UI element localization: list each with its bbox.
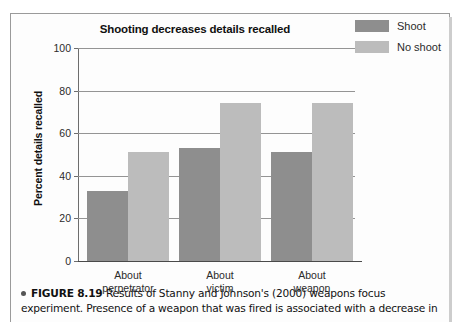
bar-no-shoot xyxy=(128,152,169,261)
plot-area: 020406080100 AboutperpetratorAboutvictim… xyxy=(78,48,355,261)
legend-label-shoot: Shoot xyxy=(397,20,426,32)
y-tick-mark xyxy=(74,133,78,134)
x-axis-line xyxy=(75,261,362,262)
bar-no-shoot xyxy=(220,103,261,261)
bar-shoot xyxy=(179,148,220,261)
legend-swatch-no-shoot xyxy=(355,41,389,53)
legend-swatch-shoot xyxy=(355,20,389,32)
bar-chart-figure: Shooting decreases details recalled Shoo… xyxy=(10,13,450,275)
y-tick-label: 100 xyxy=(53,42,71,54)
bar-shoot xyxy=(87,191,128,261)
y-tick-label: 40 xyxy=(59,170,71,182)
caption-figure-label: FIGURE 8.19 xyxy=(31,287,103,299)
legend-label-no-shoot: No shoot xyxy=(397,41,441,53)
y-tick-mark xyxy=(74,218,78,219)
bar-group: Aboutweapon xyxy=(271,48,353,261)
bar-group: Aboutvictim xyxy=(179,48,261,261)
y-tick-label: 80 xyxy=(59,85,71,97)
bar-no-shoot xyxy=(312,103,353,261)
y-tick-label: 0 xyxy=(65,255,71,267)
legend-item-no-shoot: No shoot xyxy=(355,41,450,53)
y-axis-title: Percent details recalled xyxy=(32,91,44,206)
y-axis-line xyxy=(78,48,79,261)
y-tick-mark xyxy=(74,261,78,262)
y-tick-mark xyxy=(74,48,78,49)
figure-caption: FIGURE 8.19 Results of Stanny and Johnso… xyxy=(21,286,441,316)
y-tick-mark xyxy=(74,91,78,92)
bullet-dot-icon xyxy=(21,291,26,296)
y-tick-label: 20 xyxy=(59,212,71,224)
legend-item-shoot: Shoot xyxy=(355,20,450,32)
chart-legend: Shoot No shoot xyxy=(355,20,450,62)
bar-group: Aboutperpetrator xyxy=(87,48,169,261)
chart-title: Shooting decreases details recalled xyxy=(50,23,340,35)
y-tick-mark xyxy=(74,176,78,177)
y-tick-label: 60 xyxy=(59,127,71,139)
bar-shoot xyxy=(271,152,312,261)
